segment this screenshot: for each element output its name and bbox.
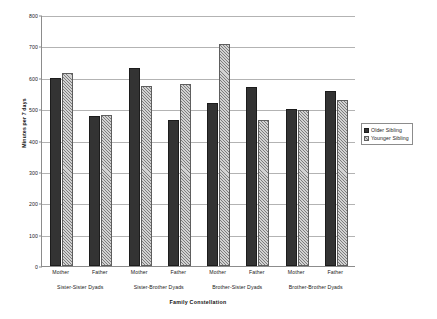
y-axis-tick-label: 600: [29, 76, 38, 82]
bar-younger-sibling: [180, 84, 191, 266]
y-axis-tick-label: 500: [29, 107, 38, 113]
plot-area: 0100200300400500600700800: [41, 16, 355, 267]
bar-younger-sibling: [101, 115, 112, 266]
y-axis-tick-label: 200: [29, 201, 38, 207]
y-axis-tick-label: 700: [29, 44, 38, 50]
y-axis-tick-mark: [39, 267, 42, 268]
x-axis-tick-label: Mother: [52, 269, 69, 275]
x-axis-tick-label: Father: [249, 269, 265, 275]
legend-item-older-sibling: Older Sibling: [364, 126, 409, 134]
legend-swatch-icon-younger: [364, 136, 369, 141]
bar-older-sibling: [129, 68, 140, 266]
y-axis-title: Minutes per 7 days: [21, 53, 27, 193]
y-axis-tick-label: 100: [29, 233, 38, 239]
y-axis-tick-label: 300: [29, 170, 38, 176]
x-axis-tick-label: Father: [92, 269, 108, 275]
x-axis-tick-labels: MotherFatherMotherFatherMotherFatherMoth…: [41, 269, 355, 283]
x-axis-tick-label: Mother: [209, 269, 226, 275]
x-axis-title: Family Constellation: [41, 299, 355, 305]
bar-older-sibling: [50, 78, 61, 266]
bar-older-sibling: [168, 120, 179, 266]
x-axis-tick-label: Mother: [288, 269, 305, 275]
bar-younger-sibling: [337, 100, 348, 266]
bars-layer: [42, 16, 355, 266]
y-axis-tick-label: 800: [29, 13, 38, 19]
x-axis-group-label: Brother-Sister Dyads: [212, 284, 262, 290]
bar-older-sibling: [207, 103, 218, 266]
bar-younger-sibling: [298, 110, 309, 266]
bar-younger-sibling: [258, 120, 269, 266]
chart-legend: Older Sibling Younger Sibling: [361, 123, 413, 145]
bar-older-sibling: [89, 116, 100, 266]
legend-swatch-icon-older: [364, 128, 369, 133]
legend-label-younger: Younger Sibling: [371, 135, 409, 141]
bar-younger-sibling: [219, 44, 230, 266]
x-axis-tick-label: Mother: [131, 269, 148, 275]
bar-younger-sibling: [141, 86, 152, 266]
x-axis-group-label: Sister-Sister Dyads: [57, 284, 103, 290]
y-axis-tick-label: 0: [35, 264, 38, 270]
y-axis-tick-label: 400: [29, 139, 38, 145]
bar-older-sibling: [246, 87, 257, 266]
bar-chart: Minutes per 7 days 010020030040050060070…: [0, 0, 437, 319]
bar-older-sibling: [325, 91, 336, 266]
x-axis-tick-label: Father: [328, 269, 344, 275]
x-axis-group-labels: Sister-Sister DyadsSister-Brother DyadsB…: [41, 284, 355, 296]
legend-label-older: Older Sibling: [371, 127, 402, 133]
x-axis-group-label: Sister-Brother Dyads: [134, 284, 184, 290]
x-axis-tick-label: Father: [171, 269, 187, 275]
bar-older-sibling: [286, 109, 297, 266]
bar-younger-sibling: [62, 73, 73, 266]
x-axis-group-label: Brother-Brother Dyads: [289, 284, 343, 290]
legend-item-younger-sibling: Younger Sibling: [364, 134, 409, 142]
